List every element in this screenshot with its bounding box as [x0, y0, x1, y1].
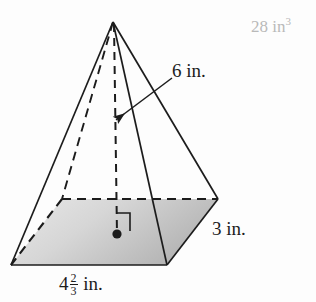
depth-label: 3 in.	[212, 219, 246, 238]
slant-height-label: 6 in.	[172, 61, 206, 80]
answer-exponent: 3	[285, 15, 291, 27]
width-fraction-denominator: 3	[70, 285, 78, 297]
width-fraction: 23	[70, 272, 78, 297]
width-unit: in.	[83, 273, 103, 294]
width-whole-number: 4	[59, 273, 69, 294]
answer-annotation: 28 in3	[251, 16, 291, 35]
pyramid-figure: 6 in. 3 in. 423 in. 28 in3	[0, 0, 316, 302]
pyramid-drawing	[0, 0, 316, 302]
base-center-point	[112, 229, 121, 238]
answer-value: 28 in	[251, 17, 285, 36]
width-fraction-numerator: 2	[70, 272, 78, 284]
slant-height-leader-line	[116, 78, 172, 120]
width-label: 423 in.	[59, 272, 103, 297]
lateral-edge-back-left-hidden	[62, 22, 113, 199]
